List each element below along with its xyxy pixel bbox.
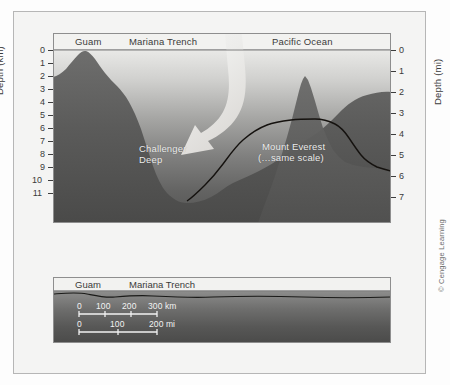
mi-scale-label-200-mi: 200 mi [149,319,175,329]
left-tick-mark [48,50,53,51]
right-axis-title: Depth (mi) [432,59,443,105]
right-tick-label: 0 [399,45,413,55]
annotation-challenger-deep-line2: Deep [139,154,162,166]
left-tick-mark [48,154,53,155]
right-tick-mark [391,155,396,156]
right-tick-mark [391,50,396,51]
scale-header-mariana-trench: Mariana Trench [129,279,195,290]
header-label-mariana-trench: Mariana Trench [129,36,197,47]
right-tick-label: 7 [399,192,413,202]
mi-scale-label-100: 100 [110,319,124,329]
cross-section-svg [53,33,391,223]
left-tick-mark [48,128,53,129]
figure-root: Guam Mariana Trench Pacific Ocean Challe… [0,0,450,385]
cross-section-panel: Guam Mariana Trench Pacific Ocean Challe… [53,33,391,223]
left-tick-label: 0 [31,45,45,55]
right-tick-label: 5 [399,150,413,160]
left-tick-mark [48,193,53,194]
left-tick-mark [48,115,53,116]
scale-header-guam: Guam [75,279,101,290]
left-tick-label: 2 [31,71,45,81]
right-tick-mark [391,71,396,72]
km-scale-label-0: 0 [77,301,82,311]
copyright-credit: © Cengage Learning [437,219,446,292]
left-tick-mark [48,89,53,90]
left-axis-title: Depth (km) [0,46,5,95]
header-label-guam: Guam [75,36,101,47]
left-tick-label: 3 [31,84,45,94]
header-label-pacific-ocean: Pacific Ocean [272,36,333,47]
left-tick-label: 11 [28,188,42,198]
right-tick-mark [391,113,396,114]
mi-scale-label-0: 0 [77,319,82,329]
left-tick-mark [48,76,53,77]
km-scale-label-100: 100 [96,301,110,311]
km-scale-label-200: 200 [122,301,136,311]
right-tick-label: 3 [399,108,413,118]
left-tick-label: 1 [31,58,45,68]
left-tick-mark [48,167,53,168]
annotation-mount-everest-line2: (…same scale) [258,152,324,164]
left-tick-mark [48,63,53,64]
right-tick-mark [391,134,396,135]
right-tick-label: 1 [399,66,413,76]
right-tick-label: 2 [399,87,413,97]
annotation-challenger-deep-line1: Challenger [139,143,186,155]
left-tick-label: 8 [31,149,45,159]
left-tick-label: 7 [31,136,45,146]
annotation-mount-everest-line1: Mount Everest [262,141,325,153]
left-tick-mark [48,180,53,181]
left-tick-mark [48,102,53,103]
left-tick-label: 10 [28,175,42,185]
scale-panel: Guam Mariana Trench 0 100 200 300 km 0 1… [53,277,391,343]
right-tick-mark [391,92,396,93]
right-tick-mark [391,176,396,177]
left-tick-label: 9 [31,162,45,172]
left-tick-label: 4 [31,97,45,107]
left-tick-mark [48,141,53,142]
left-tick-label: 5 [31,110,45,120]
right-tick-label: 6 [399,171,413,181]
km-scale-label-300-km: 300 km [148,301,176,311]
right-tick-mark [391,197,396,198]
left-tick-label: 6 [31,123,45,133]
right-tick-label: 4 [399,129,413,139]
